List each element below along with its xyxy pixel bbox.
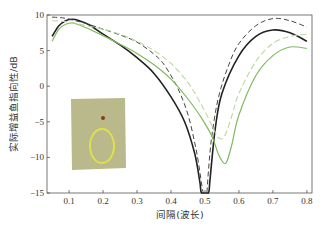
x-tick-label: 0.1 (63, 196, 74, 206)
antenna-inset-image (71, 98, 126, 170)
chart: 0.10.20.30.40.50.60.70.8 1050−5−10−15 间隔… (0, 0, 322, 229)
y-tick-label: 0 (40, 81, 45, 91)
x-axis-title: 间隔(波长) (156, 209, 203, 220)
x-tick-label: 0.3 (131, 196, 143, 206)
inset-ground-plane (71, 98, 126, 170)
y-tick-label: 10 (35, 10, 45, 20)
x-tick-label: 0.2 (97, 196, 108, 206)
y-tick-label: −5 (34, 117, 44, 127)
x-tick-label: 0.5 (199, 196, 211, 206)
x-tick-label: 0.4 (165, 196, 177, 206)
x-tick-label: 0.7 (267, 196, 279, 206)
inset-feed-point (101, 116, 105, 120)
y-tick-label: −15 (30, 188, 45, 198)
y-tick-label: 5 (40, 46, 45, 56)
x-tick-label: 0.6 (233, 196, 245, 206)
y-axis-title: 实际增益鱼指向性/dB (8, 56, 19, 152)
y-tick-label: −10 (30, 152, 45, 162)
x-tick-label: 0.8 (301, 196, 313, 206)
